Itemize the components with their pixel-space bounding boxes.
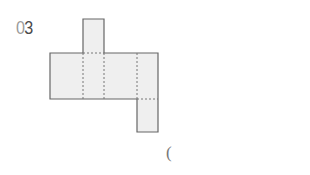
cuboid-net-figure: [0, 0, 310, 175]
main-strip-face: [50, 53, 158, 99]
answer-blank-paren: (: [166, 143, 172, 163]
bottom-tab-face: [137, 99, 158, 132]
top-tab-face: [83, 19, 104, 53]
